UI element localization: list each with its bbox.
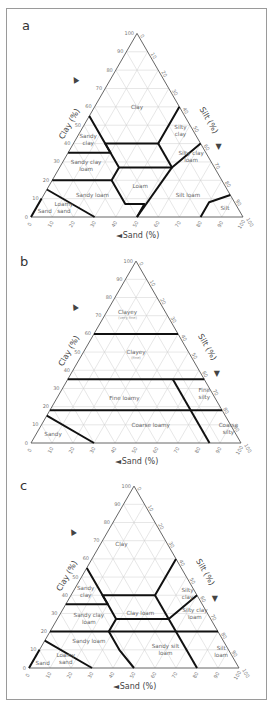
clay-arrow-icon: ▲ — [70, 73, 81, 84]
clay-tick: 0 — [23, 665, 26, 671]
silt-tick: 0 — [138, 261, 145, 267]
region-label: clay — [83, 140, 95, 147]
clay-tick: 100 — [121, 483, 131, 489]
silt-axis-title: Silt (%) — [198, 105, 220, 135]
sand-tick: 10 — [46, 220, 54, 229]
region-label: Sandy silt — [152, 643, 180, 650]
silt-arrow-icon: ▼ — [212, 594, 219, 603]
silt-arrow-icon: ▼ — [215, 142, 222, 151]
region-label: clay — [175, 131, 187, 138]
sand-tick: 40 — [110, 220, 118, 229]
class-boundary — [103, 559, 177, 604]
clay-tick: 10 — [30, 646, 36, 652]
clay-tick: 50 — [74, 349, 80, 355]
silt-tick: 10 — [149, 279, 157, 288]
region-label: Silty clay — [182, 607, 208, 614]
texture-triangle-b: 0010010109020208030307040406050505060604… — [20, 254, 253, 466]
region-label: Sandy — [80, 133, 98, 140]
clay-tick: 0 — [25, 214, 28, 220]
sand-tick: 0 — [26, 447, 33, 453]
clay-tick: 90 — [116, 276, 122, 282]
sand-arrow-icon: ◄ — [116, 231, 123, 240]
region-label: Sand — [36, 660, 51, 666]
sand-tick: 10 — [44, 671, 52, 680]
clay-tick: 30 — [51, 610, 57, 616]
sand-tick: 50 — [131, 220, 139, 229]
class-boundary — [158, 144, 172, 168]
class-boundary — [137, 167, 172, 217]
region-sublabel: (fine) — [131, 356, 141, 360]
region-label: Sandy clay — [71, 159, 102, 166]
region-label: Coarse loamy — [132, 422, 171, 429]
region-label: Fine — [199, 387, 211, 393]
region-label: Silt loam — [176, 192, 200, 198]
silt-arrow-icon: ▼ — [214, 369, 221, 378]
sand-tick: 70 — [173, 220, 181, 229]
sand-tick: 30 — [86, 671, 94, 680]
sand-tick: 20 — [67, 220, 75, 229]
region-label: Clayey — [118, 309, 138, 316]
sand-tick: 50 — [130, 446, 138, 455]
silt-tick: 10 — [147, 504, 155, 513]
region-label: Coarse — [219, 422, 239, 428]
clay-tick: 70 — [93, 537, 99, 543]
texture-triangle-a: 0010010109020208030307040406050505060604… — [22, 18, 255, 240]
sand-tick: 80 — [193, 446, 201, 455]
sand-tick: 90 — [212, 671, 220, 680]
region-label: Clay — [131, 104, 144, 111]
region-label: silty — [223, 429, 235, 436]
clay-tick: 80 — [106, 67, 112, 73]
panel-letter: a — [22, 18, 30, 33]
region-label: loam — [214, 652, 228, 658]
clay-tick: 60 — [83, 555, 89, 561]
region-label: Sandy — [44, 431, 62, 438]
sand-axis-title: Sand (%) — [123, 231, 160, 240]
region-sublabel: (very fine) — [118, 316, 137, 320]
sand-tick: 100 — [236, 218, 246, 229]
sand-tick: 20 — [67, 446, 75, 455]
region-label: Loamy — [55, 201, 74, 208]
region-label: silty — [198, 394, 210, 401]
region-label: loam — [79, 166, 93, 172]
clay-arrow-icon: ▲ — [70, 301, 81, 312]
clay-tick: 10 — [32, 195, 38, 201]
class-boundary — [105, 107, 179, 153]
sand-tick: 100 — [232, 669, 242, 680]
sand-tick: 10 — [46, 446, 54, 455]
clay-tick: 30 — [53, 385, 59, 391]
sand-tick: 50 — [128, 671, 136, 680]
panel-letter: b — [20, 254, 28, 269]
region-label: sand — [57, 208, 71, 214]
clay-tick: 40 — [64, 367, 70, 373]
sand-tick: 0 — [24, 672, 31, 678]
region-label: loam — [82, 619, 96, 625]
clay-tick: 90 — [114, 501, 120, 507]
clay-tick: 20 — [41, 628, 47, 634]
clay-tick: 50 — [72, 574, 78, 580]
region-label: loam — [184, 157, 198, 163]
sand-tick: 60 — [151, 446, 159, 455]
region-label: Clayey — [127, 349, 147, 356]
silt-tick: 100 — [245, 217, 255, 228]
clay-tick: 40 — [62, 592, 68, 598]
silt-tick: 0 — [139, 33, 146, 39]
sand-tick: 90 — [216, 220, 224, 229]
silt-tick: 100 — [241, 668, 251, 679]
clay-tick: 80 — [104, 519, 110, 525]
sand-tick: 20 — [65, 671, 73, 680]
sand-tick: 40 — [107, 671, 115, 680]
sand-axis-title: Sand (%) — [122, 457, 159, 466]
clay-tick: 50 — [75, 122, 81, 128]
soil-texture-triangles: 0010010109020208030307040406050505060604… — [0, 0, 273, 707]
silt-tick: 100 — [243, 443, 253, 454]
clay-tick: 90 — [117, 48, 123, 54]
region-label: Sandy loam — [76, 192, 109, 199]
sand-tick: 80 — [195, 220, 203, 229]
sand-tick: 90 — [214, 446, 222, 455]
sand-tick: 60 — [149, 671, 157, 680]
clay-tick: 60 — [85, 103, 91, 109]
texture-triangle-c: 0010010109020208030307040406050505060604… — [20, 478, 251, 691]
sand-tick: 40 — [109, 446, 117, 455]
clay-tick: 100 — [124, 30, 134, 36]
region-label: sand — [59, 659, 73, 665]
